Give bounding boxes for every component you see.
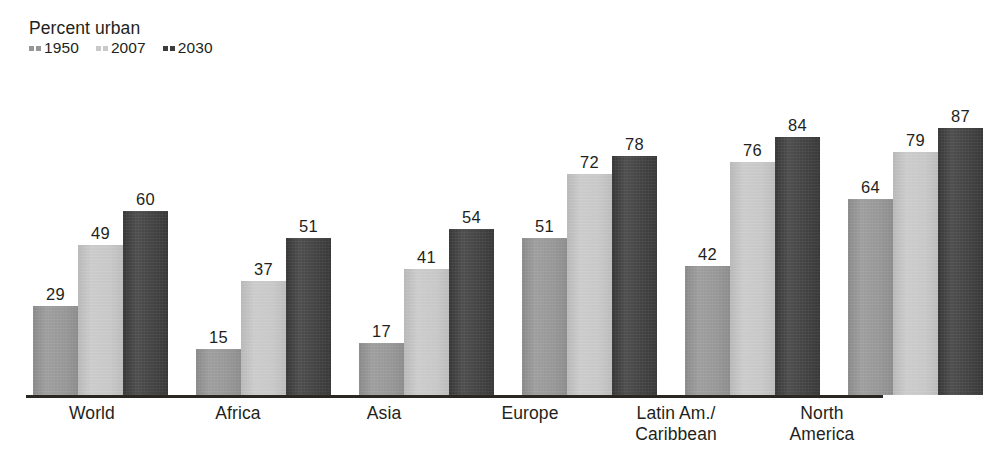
bar-group-africa: 153751 bbox=[196, 90, 331, 395]
bar-slot: 49 bbox=[78, 90, 123, 395]
bar-group-world: 294960 bbox=[33, 90, 168, 395]
bar-texture bbox=[196, 349, 241, 395]
bar-value-label: 15 bbox=[209, 328, 228, 346]
legend-label: 2030 bbox=[178, 40, 213, 56]
bar-value-label: 79 bbox=[906, 131, 925, 149]
bar-value-label: 41 bbox=[417, 248, 436, 266]
bar-value-label: 17 bbox=[372, 322, 391, 340]
bar-2030[interactable]: 84 bbox=[775, 137, 820, 395]
legend-swatch-icon bbox=[96, 46, 101, 51]
bar-shading bbox=[522, 238, 567, 395]
chart-legend: Percent urban 195020072030 bbox=[29, 18, 213, 56]
bar-texture bbox=[685, 266, 730, 395]
bar-texture bbox=[730, 162, 775, 395]
bar-2030[interactable]: 87 bbox=[938, 128, 983, 395]
bar-2007[interactable]: 79 bbox=[893, 152, 938, 395]
legend-swatch-icon bbox=[163, 46, 168, 51]
legend-swatch-icon bbox=[103, 46, 108, 51]
bar-texture bbox=[449, 229, 494, 395]
bar-value-label: 29 bbox=[46, 285, 65, 303]
bar-value-label: 72 bbox=[580, 153, 599, 171]
bar-slot: 60 bbox=[123, 90, 168, 395]
bar-shading bbox=[730, 162, 775, 395]
bar-texture bbox=[241, 281, 286, 395]
bar-value-label: 78 bbox=[625, 135, 644, 153]
bar-2030[interactable]: 78 bbox=[612, 156, 657, 395]
bar-shading bbox=[938, 128, 983, 395]
bar-shading bbox=[775, 137, 820, 395]
bar-2030[interactable]: 60 bbox=[123, 211, 168, 395]
bar-slot: 78 bbox=[612, 90, 657, 395]
bar-texture bbox=[775, 137, 820, 395]
bar-slot: 41 bbox=[404, 90, 449, 395]
bar-value-label: 49 bbox=[91, 224, 110, 242]
bar-1950[interactable]: 29 bbox=[33, 306, 78, 395]
category-label-line: World bbox=[69, 403, 115, 424]
bar-slot: 51 bbox=[286, 90, 331, 395]
bar-value-label: 51 bbox=[299, 217, 318, 235]
category-label-europe: Europe bbox=[471, 403, 589, 424]
bar-texture bbox=[893, 152, 938, 395]
plot-area: 294960153751174154517278427684647987 bbox=[33, 90, 881, 395]
bar-texture bbox=[404, 269, 449, 395]
bar-1950[interactable]: 64 bbox=[848, 199, 893, 395]
bar-shading bbox=[286, 238, 331, 395]
bar-groups: 294960153751174154517278427684647987 bbox=[33, 90, 881, 395]
legend-label: 1950 bbox=[44, 40, 79, 56]
legend-swatch-group-2030 bbox=[163, 46, 175, 51]
bar-value-label: 60 bbox=[136, 190, 155, 208]
legend-entry-1950: 1950 bbox=[29, 40, 79, 56]
bar-slot: 84 bbox=[775, 90, 820, 395]
bar-slot: 76 bbox=[730, 90, 775, 395]
legend-swatch-icon bbox=[36, 46, 41, 51]
bar-texture bbox=[33, 306, 78, 395]
bar-1950[interactable]: 17 bbox=[359, 343, 404, 395]
category-label-line: North bbox=[800, 403, 843, 424]
bar-2007[interactable]: 76 bbox=[730, 162, 775, 395]
bar-shading bbox=[33, 306, 78, 395]
bar-1950[interactable]: 42 bbox=[685, 266, 730, 395]
bar-slot: 79 bbox=[893, 90, 938, 395]
bar-2030[interactable]: 54 bbox=[449, 229, 494, 395]
bar-value-label: 64 bbox=[861, 178, 880, 196]
bar-shading bbox=[449, 229, 494, 395]
category-label-line: Europe bbox=[501, 403, 558, 424]
legend-swatch-group-1950 bbox=[29, 46, 41, 51]
category-label-asia: Asia bbox=[325, 403, 443, 424]
bar-2007[interactable]: 41 bbox=[404, 269, 449, 395]
bar-value-label: 84 bbox=[788, 116, 807, 134]
bar-shading bbox=[196, 349, 241, 395]
bar-2007[interactable]: 49 bbox=[78, 245, 123, 395]
category-label-line: Latin Am./ bbox=[637, 403, 716, 424]
legend-entries: 195020072030 bbox=[29, 40, 213, 56]
category-labels: WorldAfricaAsiaEuropeLatin Am./Caribbean… bbox=[33, 403, 881, 445]
category-label-africa: Africa bbox=[179, 403, 297, 424]
bar-slot: 15 bbox=[196, 90, 241, 395]
bar-texture bbox=[567, 174, 612, 395]
category-label-latin-am-caribbean: Latin Am./Caribbean bbox=[617, 403, 735, 445]
bar-2007[interactable]: 37 bbox=[241, 281, 286, 395]
legend-entry-2007: 2007 bbox=[96, 40, 146, 56]
bar-1950[interactable]: 15 bbox=[196, 349, 241, 395]
bar-value-label: 51 bbox=[535, 217, 554, 235]
bar-texture bbox=[612, 156, 657, 395]
legend-swatch-icon bbox=[170, 46, 175, 51]
bar-2007[interactable]: 72 bbox=[567, 174, 612, 395]
bar-shading bbox=[612, 156, 657, 395]
bar-2030[interactable]: 51 bbox=[286, 238, 331, 395]
bar-shading bbox=[893, 152, 938, 395]
bar-texture bbox=[359, 343, 404, 395]
legend-label: 2007 bbox=[111, 40, 146, 56]
bar-value-label: 54 bbox=[462, 208, 481, 226]
bar-slot: 64 bbox=[848, 90, 893, 395]
bar-slot: 87 bbox=[938, 90, 983, 395]
category-label-line: Caribbean bbox=[635, 424, 717, 445]
category-label-world: World bbox=[33, 403, 151, 424]
bar-shading bbox=[241, 281, 286, 395]
bar-slot: 17 bbox=[359, 90, 404, 395]
bar-slot: 54 bbox=[449, 90, 494, 395]
bar-slot: 42 bbox=[685, 90, 730, 395]
bar-shading bbox=[567, 174, 612, 395]
bar-1950[interactable]: 51 bbox=[522, 238, 567, 395]
bar-slot: 37 bbox=[241, 90, 286, 395]
